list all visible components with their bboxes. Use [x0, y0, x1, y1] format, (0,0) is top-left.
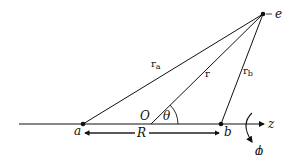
label-origin: O	[140, 109, 150, 123]
label-phi: ϕ	[255, 144, 263, 155]
label-r: r	[205, 68, 210, 79]
nucleus-a-point	[81, 122, 86, 127]
diatomic-coordinate-diagram: a b e O R θ z ϕ r ra rb	[0, 0, 295, 155]
theta-arc	[170, 105, 178, 124]
label-R: R	[136, 126, 146, 140]
ra-line	[83, 14, 263, 124]
label-a: a	[74, 124, 81, 138]
rb-line	[221, 14, 263, 124]
label-e: e	[275, 7, 282, 21]
label-rb: rb	[243, 65, 253, 78]
label-theta: θ	[163, 109, 171, 123]
label-ra: ra	[151, 58, 161, 71]
label-z: z	[267, 117, 275, 131]
phi-rotation-arrow	[246, 113, 252, 142]
nucleus-b-point	[219, 122, 224, 127]
label-b: b	[224, 125, 232, 139]
electron-point	[261, 12, 266, 17]
